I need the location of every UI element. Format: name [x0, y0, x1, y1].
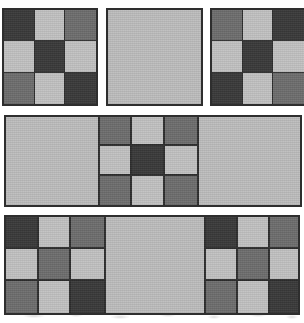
- checker-tile-top-right-cell-2-1-light: [243, 73, 274, 104]
- checker-block-bottom-right-grid: [206, 217, 300, 313]
- checker-block-center-cell-0-1-light: [132, 117, 164, 146]
- middle-strip: [4, 115, 302, 207]
- checker-block-bottom-left-cell-1-1-medium: [39, 249, 72, 281]
- middle-strip-segments: [6, 117, 300, 205]
- checker-block-bottom-left-cell-1-2-light: [71, 249, 104, 281]
- plain-tile-top-center: [106, 8, 203, 106]
- checker-block-bottom-right-cell-2-0-medium: [206, 281, 238, 313]
- checker-block-center-cell-1-1-dark: [132, 146, 164, 175]
- figure-canvas: [0, 0, 304, 323]
- checker-block-bottom-left: [6, 217, 104, 313]
- checker-block-center-grid: [100, 117, 197, 205]
- plain-block-left-fill-plain: [6, 117, 98, 205]
- checker-block-bottom-right-cell-2-2-dark: [270, 281, 300, 313]
- checker-block-center: [98, 117, 197, 205]
- bottom-strip-segments: [6, 217, 298, 313]
- checker-block-center-cell-0-2-medium: [165, 117, 197, 146]
- checker-tile-top-left-cell-2-1-light: [35, 73, 66, 104]
- checker-block-bottom-right-cell-0-2-medium: [270, 217, 300, 249]
- checker-block-bottom-left-grid: [6, 217, 104, 313]
- checker-tile-top-left-cell-0-1-light: [35, 10, 66, 41]
- plain-block-left: [6, 117, 98, 205]
- bottom-strip: [4, 215, 300, 315]
- checker-block-center-cell-2-2-medium: [165, 176, 197, 205]
- checker-block-bottom-right-cell-1-2-light: [270, 249, 300, 281]
- checker-tile-top-right-cell-0-2-dark: [273, 10, 304, 41]
- checker-block-bottom-left-cell-0-1-light: [39, 217, 72, 249]
- checker-block-center-cell-2-1-light: [132, 176, 164, 205]
- checker-tile-top-right-cell-1-1-dark: [243, 41, 274, 72]
- checker-tile-top-left-cell-2-2-dark: [65, 73, 96, 104]
- checker-tile-top-left-grid: [4, 10, 96, 104]
- checker-tile-top-right: [210, 8, 304, 106]
- checker-block-center-cell-1-0-light: [100, 146, 132, 175]
- checker-block-bottom-right-cell-1-0-light: [206, 249, 238, 281]
- checker-tile-top-right-cell-1-0-light: [212, 41, 243, 72]
- checker-tile-top-left-cell-0-2-medium: [65, 10, 96, 41]
- checker-block-bottom-left-cell-0-0-dark: [6, 217, 39, 249]
- checker-block-center-cell-0-0-medium: [100, 117, 132, 146]
- checker-block-center-cell-1-2-light: [165, 146, 197, 175]
- checker-block-bottom-left-cell-2-2-dark: [71, 281, 104, 313]
- checker-tile-top-right-cell-2-2-medium: [273, 73, 304, 104]
- plain-block-right: [197, 117, 302, 205]
- checker-tile-top-left-cell-1-2-light: [65, 41, 96, 72]
- checker-block-bottom-right-cell-0-0-dark: [206, 217, 238, 249]
- checker-tile-top-right-cell-0-1-light: [243, 10, 274, 41]
- plain-block-bottom-center-fill-plain: [106, 217, 204, 313]
- plain-block-right-fill-plain: [199, 117, 302, 205]
- checker-tile-top-left-cell-2-0-medium: [4, 73, 35, 104]
- checker-block-bottom-left-cell-0-2-medium: [71, 217, 104, 249]
- checker-tile-top-left-cell-0-0-dark: [4, 10, 35, 41]
- checker-tile-top-left: [2, 8, 98, 106]
- checker-tile-top-right-cell-0-0-medium: [212, 10, 243, 41]
- checker-block-bottom-right-cell-2-1-light: [238, 281, 270, 313]
- plain-block-bottom-center: [104, 217, 204, 313]
- checker-tile-top-right-grid: [212, 10, 304, 104]
- checker-block-bottom-left-cell-2-0-medium: [6, 281, 39, 313]
- checker-tile-top-right-cell-1-2-light: [273, 41, 304, 72]
- checker-block-bottom-right: [204, 217, 300, 313]
- checker-tile-top-left-cell-1-0-light: [4, 41, 35, 72]
- checker-block-center-cell-2-0-medium: [100, 176, 132, 205]
- checker-tile-top-left-cell-1-1-dark: [35, 41, 66, 72]
- checker-block-bottom-right-cell-0-1-light: [238, 217, 270, 249]
- checker-block-bottom-left-cell-2-1-light: [39, 281, 72, 313]
- checker-tile-top-right-cell-2-0-dark: [212, 73, 243, 104]
- plain-tile-top-center-fill-plain: [108, 10, 201, 104]
- checker-block-bottom-left-cell-1-0-light: [6, 249, 39, 281]
- checker-block-bottom-right-cell-1-1-medium: [238, 249, 270, 281]
